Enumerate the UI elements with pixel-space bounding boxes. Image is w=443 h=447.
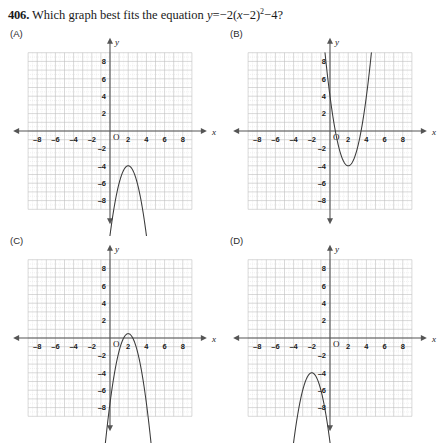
- x-tick-label: –4: [289, 135, 298, 144]
- x-tick-label: 6: [383, 135, 387, 144]
- y-axis-arrow-up: [327, 245, 333, 251]
- y-axis-label: y: [334, 244, 339, 254]
- y-tick-label: –8: [98, 196, 106, 205]
- equation: y=−2(x−2)2−4?: [207, 8, 283, 22]
- x-tick-label: 2: [126, 342, 130, 351]
- question-prompt: Which graph best fits the equation: [32, 8, 204, 22]
- x-tick-label: –4: [69, 342, 78, 351]
- y-axis-label: y: [114, 37, 119, 47]
- x-tick-label: –6: [51, 342, 59, 351]
- y-axis-arrow-up: [107, 38, 113, 44]
- y-tick-label: –4: [98, 369, 107, 378]
- y-tick-label: 2: [102, 316, 106, 325]
- y-tick-label: –4: [98, 162, 107, 171]
- y-tick-label: 8: [102, 57, 106, 66]
- y-tick-label: 4: [322, 299, 327, 308]
- x-tick-label: –8: [33, 342, 41, 351]
- y-axis-arrow-down: [327, 218, 333, 224]
- y-axis-label: y: [334, 37, 339, 47]
- y-tick-label: 8: [102, 264, 106, 273]
- equation-question-mark: ?: [277, 8, 283, 22]
- y-tick-label: 6: [322, 282, 326, 291]
- x-tick-label: –6: [51, 135, 59, 144]
- y-tick-label: –6: [98, 386, 106, 395]
- graph-d[interactable]: –8–6–4–224688642–2–4–6–8Oxy: [220, 233, 441, 443]
- y-axis-arrow-up: [107, 245, 113, 251]
- y-tick-label: 4: [102, 299, 107, 308]
- x-tick-label: –8: [253, 135, 261, 144]
- y-tick-label: 6: [102, 282, 106, 291]
- question-line: 406. Which graph best fits the equation …: [8, 5, 438, 25]
- question-number: 406.: [8, 8, 29, 22]
- x-tick-label: 6: [383, 342, 387, 351]
- answer-choice-c[interactable]: (C) –8–6–4–224688642–2–4–6–8Oxy: [0, 233, 221, 443]
- x-tick-label: 8: [401, 342, 405, 351]
- x-tick-label: –8: [253, 342, 261, 351]
- x-tick-label: –2: [88, 342, 96, 351]
- x-tick-label: –6: [271, 342, 279, 351]
- answer-choice-d[interactable]: (D) –8–6–4–224688642–2–4–6–8Oxy: [220, 233, 441, 443]
- y-tick-label: –2: [318, 351, 326, 360]
- x-tick-label: 8: [181, 135, 185, 144]
- x-tick-label: –6: [271, 135, 279, 144]
- answer-choice-grid: (A) –8–6–4–224688642–2–4–6–8Oxy (B) –8–6…: [0, 26, 443, 447]
- y-tick-label: –4: [318, 162, 327, 171]
- answer-choice-b[interactable]: (B) –8–6–4–224688642–2–4–6–8Oxy: [220, 26, 441, 236]
- origin-label: O: [333, 339, 340, 349]
- graph-a[interactable]: –8–6–4–224688642–2–4–6–8Oxy: [0, 26, 221, 236]
- equation-minus: −: [243, 8, 250, 22]
- x-axis-label: x: [211, 334, 216, 344]
- y-tick-label: 4: [102, 92, 107, 101]
- x-tick-label: –8: [33, 135, 41, 144]
- graph-c[interactable]: –8–6–4–224688642–2–4–6–8Oxy: [0, 233, 221, 443]
- x-tick-label: –2: [308, 342, 316, 351]
- x-tick-label: 2: [346, 342, 350, 351]
- x-tick-label: –4: [289, 342, 298, 351]
- y-tick-label: –2: [98, 144, 106, 153]
- x-tick-label: –4: [69, 135, 78, 144]
- x-axis-arrow-left: [233, 128, 239, 134]
- x-tick-label: 8: [181, 342, 185, 351]
- answer-choice-a[interactable]: (A) –8–6–4–224688642–2–4–6–8Oxy: [0, 26, 221, 236]
- graph-b[interactable]: –8–6–4–224688642–2–4–6–8Oxy: [220, 26, 441, 236]
- y-tick-label: –8: [318, 196, 326, 205]
- x-tick-label: –2: [88, 135, 96, 144]
- x-axis-label: x: [211, 127, 216, 137]
- y-tick-label: 6: [322, 75, 326, 84]
- y-axis-arrow-down: [107, 425, 113, 431]
- x-tick-label: 2: [126, 135, 130, 144]
- x-axis-arrow-right: [421, 335, 427, 341]
- origin-label: O: [113, 132, 120, 142]
- x-tick-label: –2: [308, 135, 316, 144]
- y-axis-arrow-up: [327, 38, 333, 44]
- equation-equals: =: [213, 8, 220, 22]
- x-tick-label: 8: [401, 135, 405, 144]
- x-axis-arrow-right: [201, 335, 207, 341]
- x-axis-arrow-left: [233, 335, 239, 341]
- y-axis-label: y: [114, 244, 119, 254]
- x-axis-arrow-right: [201, 128, 207, 134]
- y-tick-label: 4: [322, 92, 327, 101]
- x-axis-label: x: [431, 334, 436, 344]
- y-tick-label: 6: [102, 75, 106, 84]
- x-tick-label: 2: [346, 135, 350, 144]
- y-tick-label: –8: [98, 403, 106, 412]
- y-tick-label: 2: [102, 109, 106, 118]
- y-tick-label: –6: [98, 179, 106, 188]
- x-axis-label: x: [431, 127, 436, 137]
- y-tick-label: 8: [322, 264, 326, 273]
- x-axis-arrow-left: [13, 335, 19, 341]
- x-tick-label: 6: [163, 135, 167, 144]
- equation-sign: −: [220, 8, 227, 22]
- y-tick-label: –2: [98, 351, 106, 360]
- x-axis-arrow-right: [421, 128, 427, 134]
- y-tick-label: –4: [318, 369, 327, 378]
- y-tick-label: 2: [322, 316, 326, 325]
- y-tick-label: 2: [322, 109, 326, 118]
- origin-label: O: [113, 339, 120, 349]
- y-tick-label: –6: [318, 179, 326, 188]
- x-tick-label: 6: [163, 342, 167, 351]
- x-axis-arrow-left: [13, 128, 19, 134]
- y-tick-label: –2: [318, 144, 326, 153]
